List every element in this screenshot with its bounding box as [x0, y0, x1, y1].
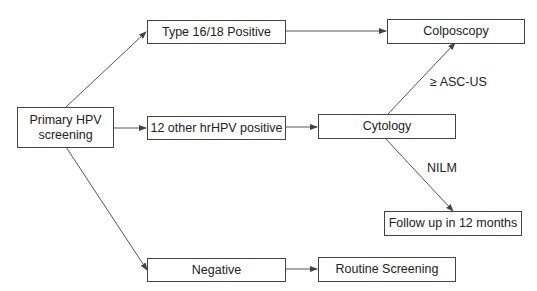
- node-follow-up-12-months: Follow up in 12 months: [384, 211, 522, 236]
- node-routine-screening: Routine Screening: [318, 257, 456, 282]
- node-routine-label: Routine Screening: [336, 262, 439, 277]
- node-cytology-label: Cytology: [363, 119, 412, 134]
- node-colposcopy-label: Colposcopy: [423, 24, 488, 39]
- node-type-16-18-positive: Type 16/18 Positive: [147, 20, 286, 44]
- node-cytology: Cytology: [318, 114, 456, 139]
- node-type1618-label: Type 16/18 Positive: [162, 25, 271, 40]
- node-negative: Negative: [147, 258, 286, 282]
- hpv-screening-flowchart: Primary HPV screening Type 16/18 Positiv…: [0, 0, 537, 291]
- node-primary-hpv-screening: Primary HPV screening: [17, 107, 114, 148]
- node-primary-line2: screening: [38, 128, 92, 143]
- node-other-hrhpv-label: 12 other hrHPV positive: [150, 121, 282, 136]
- edge-label-asc-us: ≥ ASC-US: [430, 75, 487, 89]
- edge-label-nilm: NILM: [427, 161, 457, 175]
- edge-primary-to-negative: [66, 147, 147, 270]
- node-followup-label: Follow up in 12 months: [389, 216, 518, 231]
- node-12-other-hrhpv-positive: 12 other hrHPV positive: [147, 116, 286, 140]
- node-negative-label: Negative: [192, 263, 241, 278]
- edge-primary-to-type1618: [66, 32, 146, 107]
- node-colposcopy: Colposcopy: [387, 19, 525, 44]
- node-primary-line1: Primary HPV: [29, 113, 101, 128]
